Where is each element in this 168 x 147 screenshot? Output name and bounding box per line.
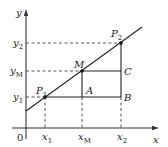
axes (12, 9, 159, 139)
xM-label: xM (78, 131, 91, 145)
yM-label: yM (9, 65, 23, 79)
A-label: A (85, 85, 93, 96)
y1-label: y1 (12, 91, 23, 105)
P1-label: P1 (35, 85, 47, 99)
x-axis-arrow-icon (152, 126, 159, 130)
B-label: B (123, 92, 131, 103)
x1-label: x1 (42, 131, 52, 145)
C-label: C (124, 66, 132, 77)
y2-label: y2 (12, 37, 23, 51)
origin-label: 0 (17, 132, 23, 143)
x-axis-label: x (153, 134, 159, 145)
point-P2 (119, 41, 123, 45)
x2-label: x2 (117, 131, 127, 145)
M-label: M (73, 59, 85, 70)
coordinate-diagram: y x 0 y2 yM y1 x1 xM x2 P1 M P2 A B C (0, 0, 168, 147)
y-axis-label: y (15, 7, 22, 18)
P2-label: P2 (110, 28, 122, 42)
y-axis-arrow-icon (24, 9, 28, 16)
